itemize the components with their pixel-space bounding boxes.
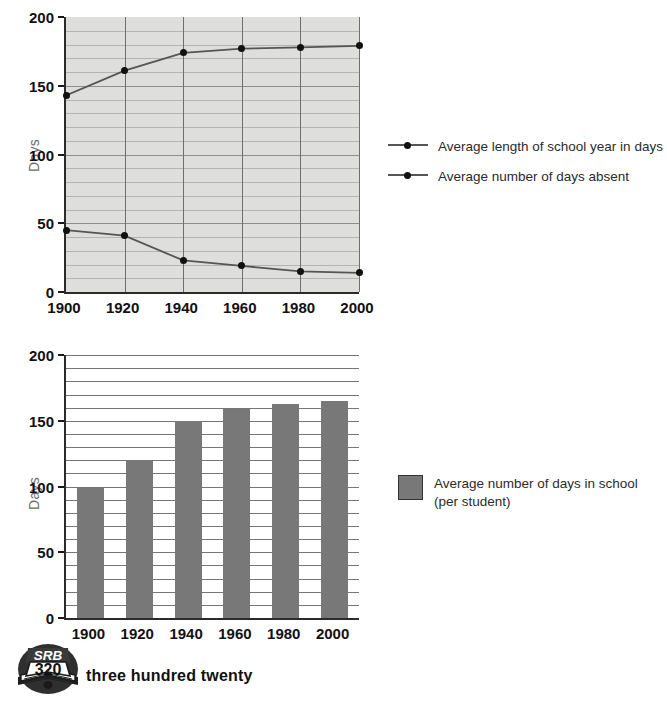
gridline-horizontal bbox=[66, 500, 359, 501]
x-tick-label: 1940 bbox=[165, 299, 198, 316]
x-tick-label: 1980 bbox=[282, 299, 315, 316]
data-point bbox=[180, 257, 187, 264]
line-marker-icon bbox=[388, 168, 428, 182]
y-tick-label: 50 bbox=[0, 544, 54, 561]
page-footer: SRB 320 three hundred twenty bbox=[0, 639, 667, 703]
y-tick-label: 50 bbox=[0, 215, 54, 232]
data-point bbox=[356, 42, 363, 49]
y-tick-label: 100 bbox=[0, 146, 54, 163]
legend-label: Average length of school year in days bbox=[438, 138, 663, 156]
bar-chart-plot-area bbox=[64, 355, 359, 620]
gridline-horizontal bbox=[66, 355, 359, 356]
gridline-horizontal bbox=[66, 473, 359, 474]
gridline-horizontal bbox=[66, 434, 359, 435]
x-tick-label: 1900 bbox=[47, 299, 80, 316]
footer-page-label: three hundred twenty bbox=[86, 667, 253, 685]
legend-item-days-in-school[interactable]: Average number of days in school (per st… bbox=[398, 475, 638, 511]
gridline-horizontal bbox=[66, 368, 359, 369]
y-tick-label: 200 bbox=[0, 9, 54, 26]
gridline-horizontal bbox=[66, 565, 359, 566]
legend-label: Average number of days in school (per st… bbox=[434, 475, 638, 511]
y-tick-label: 200 bbox=[0, 347, 54, 364]
y-tick-label: 0 bbox=[0, 610, 54, 627]
series-line-0 bbox=[66, 46, 359, 96]
bar-1920 bbox=[126, 460, 153, 618]
gridline-horizontal bbox=[66, 381, 359, 382]
gridline-vertical bbox=[359, 17, 360, 292]
legend-item-days-absent[interactable]: Average number of days absent bbox=[388, 168, 629, 186]
line-chart: Days 050100150200 1900192019401960198020… bbox=[0, 0, 380, 320]
gridline-horizontal bbox=[66, 539, 359, 540]
gridline-horizontal bbox=[66, 447, 359, 448]
bar-2000 bbox=[321, 401, 348, 618]
data-point bbox=[180, 49, 187, 56]
line-marker-icon bbox=[388, 138, 428, 152]
gridline-horizontal bbox=[66, 421, 359, 422]
gridline-horizontal bbox=[66, 513, 359, 514]
data-point bbox=[63, 227, 70, 234]
x-tick-label: 1960 bbox=[223, 299, 256, 316]
line-chart-series-lines bbox=[66, 17, 359, 292]
y-tick-label: 0 bbox=[0, 284, 54, 301]
y-tick-label: 150 bbox=[0, 77, 54, 94]
gridline-horizontal bbox=[66, 592, 359, 593]
line-chart-plot-area bbox=[64, 17, 359, 294]
bar-chart-legend: Average number of days in school (per st… bbox=[398, 475, 660, 525]
data-point bbox=[356, 269, 363, 276]
bar-1900 bbox=[77, 488, 104, 618]
data-point bbox=[297, 268, 304, 275]
worksheet-page: Days 050100150200 1900192019401960198020… bbox=[0, 0, 667, 703]
x-tick-label: 2000 bbox=[340, 299, 373, 316]
gray-swatch-icon bbox=[398, 475, 423, 500]
bar-1980 bbox=[272, 404, 299, 618]
gridline-horizontal bbox=[66, 605, 359, 606]
legend-label: Average number of days absent bbox=[438, 168, 629, 186]
bar-1960 bbox=[223, 409, 250, 618]
gridline-horizontal bbox=[66, 579, 359, 580]
data-point bbox=[297, 44, 304, 51]
legend-item-school-year[interactable]: Average length of school year in days bbox=[388, 138, 663, 156]
y-tick-label: 100 bbox=[0, 478, 54, 495]
y-tick-label: 150 bbox=[0, 412, 54, 429]
gridline-horizontal bbox=[66, 408, 359, 409]
x-tick-label: 1920 bbox=[106, 299, 139, 316]
gridline-horizontal bbox=[66, 487, 359, 488]
logo-page-number: 320 bbox=[35, 661, 62, 678]
gridline-horizontal bbox=[66, 552, 359, 553]
gridline-horizontal bbox=[66, 526, 359, 527]
srb-book-logo: SRB 320 bbox=[12, 641, 84, 701]
bar-chart: Days 050100150200 1900192019401960198020… bbox=[0, 330, 380, 640]
data-point bbox=[63, 92, 70, 99]
gridline-horizontal bbox=[66, 395, 359, 396]
series-line-1 bbox=[66, 230, 359, 273]
gridline-horizontal bbox=[66, 460, 359, 461]
bar-1940 bbox=[175, 421, 202, 618]
line-chart-legend: Average length of school year in days Av… bbox=[388, 138, 663, 198]
